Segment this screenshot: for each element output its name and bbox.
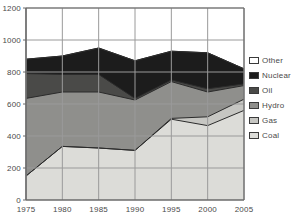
legend-item[interactable]: Nuclear [249,68,291,82]
x-axis-tick-label: 1980 [53,205,72,214]
legend-item-label: Hydro [262,101,284,110]
x-axis-tick-label: 1990 [126,205,145,214]
chart-legend: OtherNuclearOilHydroGasCoal [249,53,291,143]
legend-item-label: Coal [262,131,279,140]
x-axis-tick-label: 1985 [89,205,108,214]
x-axis-tick-label: 2000 [198,205,217,214]
legend-item-label: Nuclear [262,71,291,80]
legend-swatch-icon [249,72,259,79]
legend-swatch-icon [249,102,259,109]
legend-swatch-icon [249,87,259,94]
x-axis: 1975198019851990199520002005 [0,0,291,219]
legend-item-label: Gas [262,116,277,125]
x-axis-tick-label: 2005 [235,205,254,214]
legend-item[interactable]: Oil [249,83,291,97]
legend-swatch-icon [249,132,259,139]
legend-swatch-icon [249,117,259,124]
stacked-area-chart: 020040060080010001200 197519801985199019… [0,0,291,219]
legend-item-label: Oil [262,86,272,95]
legend-item[interactable]: Hydro [249,98,291,112]
legend-item[interactable]: Other [249,53,291,67]
legend-swatch-icon [249,57,259,64]
legend-item-label: Other [262,56,283,65]
legend-item[interactable]: Gas [249,113,291,127]
legend-item[interactable]: Coal [249,128,291,142]
x-axis-tick-label: 1975 [17,205,36,214]
x-axis-tick-label: 1995 [162,205,181,214]
